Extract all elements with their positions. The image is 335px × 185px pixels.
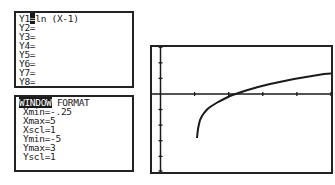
y3-line[interactable]: Y3= [19, 32, 129, 41]
y1-line[interactable]: Y1=ln (X-1) [19, 14, 129, 23]
tick-marks [159, 47, 332, 171]
window-screen: WINDOW FORMAT Xmin=-.25 Xmax=5 Xscl=1 Ym… [14, 95, 134, 172]
y8-line[interactable]: Y8= [19, 77, 129, 86]
y6-line[interactable]: Y6= [19, 59, 129, 68]
ln-curve [197, 74, 331, 139]
y7-line[interactable]: Y7= [19, 68, 129, 77]
yscl-setting[interactable]: Yscl=1 [19, 152, 129, 161]
y4-line[interactable]: Y4= [19, 41, 129, 50]
y-equals-screen: Y1=ln (X-1) Y2= Y3= Y4= Y5= Y6= Y7= Y8= [14, 11, 134, 88]
graph-plot [152, 47, 331, 172]
graph-screen [150, 45, 333, 174]
y2-line[interactable]: Y2= [19, 23, 129, 32]
axes [152, 47, 331, 172]
y5-line[interactable]: Y5= [19, 50, 129, 59]
